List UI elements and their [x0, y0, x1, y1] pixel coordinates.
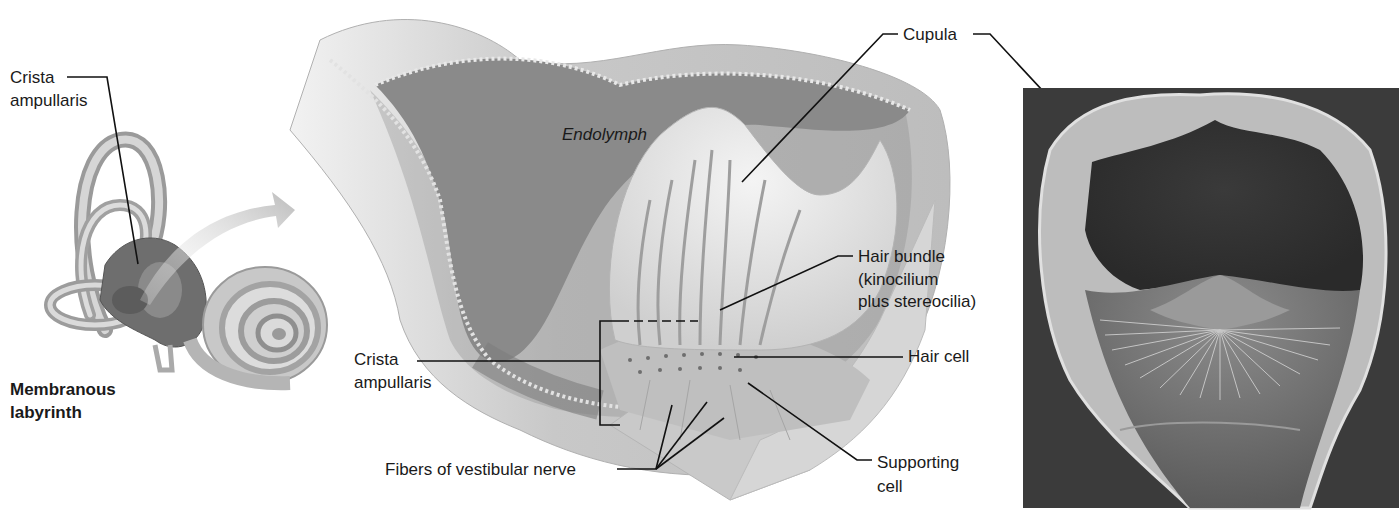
label-endolymph: Endolymph — [562, 125, 647, 144]
label-fibers-vestibular-nerve: Fibers of vestibular nerve — [385, 460, 576, 479]
ampulla-cutaway-illustration — [290, 20, 950, 500]
cochlea — [190, 267, 327, 383]
crista-ampullaris-figure: Crista ampullaris Membranous labyrinth — [0, 0, 1400, 530]
sem-micrograph — [1023, 88, 1399, 508]
label-cupula: Cupula — [903, 25, 957, 44]
label-supporting-cell: Supporting cell — [877, 453, 964, 496]
label-crista-ampullaris-left: Crista ampullaris — [10, 68, 87, 110]
label-hair-bundle: Hair bundle (kinocilium plus stereocilia… — [858, 247, 976, 311]
label-membranous-labyrinth: Membranous labyrinth — [10, 380, 121, 422]
label-hair-cell: Hair cell — [908, 347, 969, 366]
membranous-labyrinth-illustration — [50, 139, 327, 383]
